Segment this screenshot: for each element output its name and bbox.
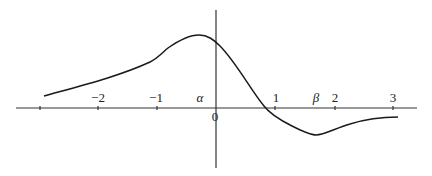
function-graph: −2 −1 α 0 1 β 2 3 <box>0 0 432 176</box>
tick-label-0: 0 <box>212 109 219 124</box>
function-curve <box>44 35 398 135</box>
tick-label-3: 3 <box>390 90 397 105</box>
alpha-label: α <box>197 90 205 105</box>
tick-label-2: 2 <box>332 90 339 105</box>
tick-label-1: 1 <box>273 90 280 105</box>
tick-label-minus2: −2 <box>91 90 105 105</box>
tick-label-minus1: −1 <box>149 90 163 105</box>
beta-label: β <box>312 90 320 105</box>
graph-canvas: −2 −1 α 0 1 β 2 3 <box>0 0 432 176</box>
